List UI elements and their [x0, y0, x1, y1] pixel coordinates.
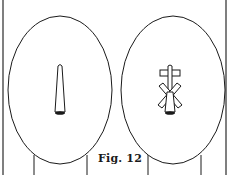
crossed-blades-icon — [158, 65, 182, 115]
figure-caption: Fig. 12 — [98, 152, 142, 165]
tapered-rod-icon — [55, 65, 65, 115]
figure-canvas: Fig. 12 — [0, 0, 229, 175]
figure-drawing — [0, 0, 229, 175]
